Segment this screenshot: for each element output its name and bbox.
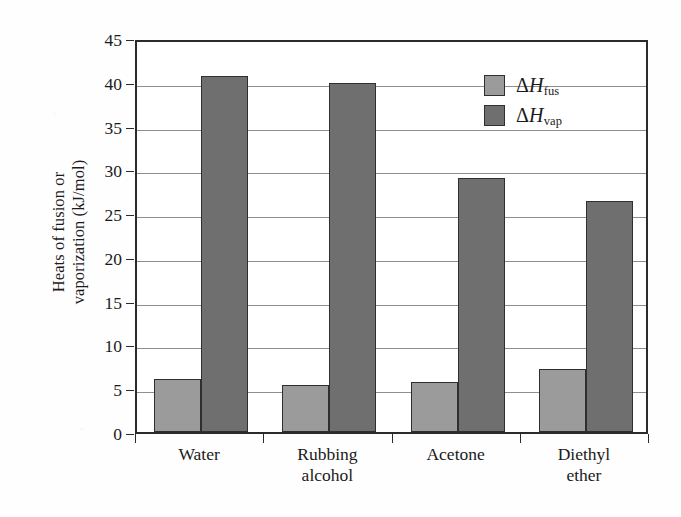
y-axis-tick xyxy=(126,259,134,260)
y-axis-tick xyxy=(126,346,134,347)
legend-item: ΔHvap xyxy=(484,100,561,130)
y-axis-tick xyxy=(126,84,134,85)
legend-item: ΔHfus xyxy=(484,70,561,100)
bar-dhfus xyxy=(539,369,586,432)
y-axis-tick xyxy=(126,390,134,391)
y-axis-tick xyxy=(126,40,134,41)
x-axis-tick xyxy=(135,434,136,443)
bar-dhfus xyxy=(411,382,458,432)
legend-swatch xyxy=(484,75,505,96)
chart-figure: Heats of fusion or vaporization (kJ/mol)… xyxy=(0,0,681,517)
bar-dhvap xyxy=(329,83,376,432)
bar-dhvap xyxy=(586,201,633,432)
x-axis-tick xyxy=(392,434,393,443)
x-axis-category-label: Diethyl ether xyxy=(509,444,659,486)
x-axis-tick xyxy=(263,434,264,443)
y-axis-tick xyxy=(126,171,134,172)
plot-area xyxy=(135,40,648,434)
y-axis-tick xyxy=(126,303,134,304)
bar-dhvap xyxy=(201,76,248,432)
x-axis-tick xyxy=(648,434,649,443)
legend-swatch xyxy=(484,105,505,126)
y-axis-title: Heats of fusion or vaporization (kJ/mol) xyxy=(49,32,89,432)
bar-dhvap xyxy=(458,178,505,432)
y-axis-tick xyxy=(126,215,134,216)
y-axis-tick xyxy=(126,434,134,435)
bar-dhfus xyxy=(154,379,201,432)
chart-legend: ΔHfusΔHvap xyxy=(484,70,561,130)
legend-label: ΔHfus xyxy=(516,74,559,97)
y-axis-tick xyxy=(126,128,134,129)
legend-label: ΔHvap xyxy=(516,104,561,127)
bar-dhfus xyxy=(282,385,329,432)
x-axis-tick xyxy=(520,434,521,443)
